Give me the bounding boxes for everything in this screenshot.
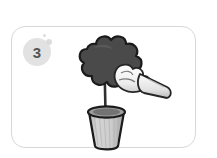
decor-dot-large [46,39,52,45]
sleeve-cuff-group [138,74,171,98]
flower-pot-group [88,106,125,149]
screenshot-canvas: 3 [0,0,217,158]
illustration-hand-picking-flower [60,30,180,152]
decor-dot-small [43,34,46,37]
